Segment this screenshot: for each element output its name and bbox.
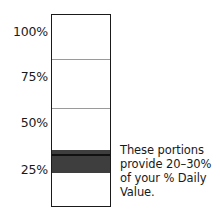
gridline-75 bbox=[52, 59, 110, 60]
annotation-line-3: of your % Daily bbox=[120, 171, 220, 185]
gridline-50 bbox=[52, 108, 110, 109]
daily-value-chart-figure: 100% 75% 50% 25% These portions provide … bbox=[0, 0, 220, 224]
annotation-text-block: These portions provide 20–30% of your % … bbox=[120, 143, 220, 199]
y-tick-label-75: 75% bbox=[0, 70, 48, 83]
y-tick-label-100: 100% bbox=[0, 25, 48, 38]
y-tick-label-50: 50% bbox=[0, 116, 48, 129]
annotation-line-2: provide 20–30% bbox=[120, 157, 220, 171]
plot-area bbox=[52, 15, 110, 206]
y-tick-label-25: 25% bbox=[0, 163, 48, 176]
annotation-line-4: Value. bbox=[120, 185, 220, 199]
portion-range-band bbox=[52, 150, 110, 173]
annotation-line-1: These portions bbox=[120, 143, 220, 157]
y-axis-tick-labels: 100% 75% 50% 25% bbox=[0, 14, 48, 207]
portion-range-band-upper-edge bbox=[52, 154, 110, 156]
percent-daily-value-column bbox=[51, 14, 111, 207]
